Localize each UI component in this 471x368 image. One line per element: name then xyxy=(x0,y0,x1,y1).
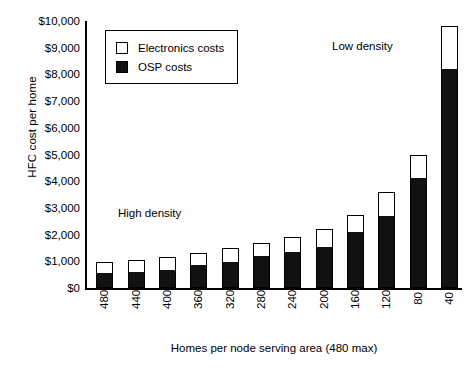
bar-segment-osp-costs xyxy=(191,265,206,287)
y-axis-tick-label: $6,000 xyxy=(18,122,80,133)
x-axis-tick-label: 320 xyxy=(222,292,239,309)
x-axis-tick-label: 280 xyxy=(253,292,270,309)
x-axis-title: Homes per node serving area (480 max) xyxy=(86,342,462,354)
stacked-bar xyxy=(253,243,270,288)
x-axis-tick-label: 120 xyxy=(378,292,395,309)
stacked-bar xyxy=(441,26,458,288)
y-axis-tick-label: $5,000 xyxy=(18,149,80,160)
bar-segment-osp-costs xyxy=(129,272,144,287)
chart-legend: Electronics costs OSP costs xyxy=(105,30,238,84)
hfc-cost-bar-chart: HFC cost per home $0$1,000$2,000$3,000$4… xyxy=(0,0,471,368)
x-axis-tick-label: 480 xyxy=(96,292,113,309)
y-axis-tick-labels: $0$1,000$2,000$3,000$4,000$5,000$6,000$7… xyxy=(18,21,80,288)
x-axis-tick-label: 400 xyxy=(159,292,176,309)
bar-segment-osp-costs xyxy=(223,262,238,287)
stacked-bar xyxy=(378,192,395,288)
annotation-low-density: Low density xyxy=(332,40,393,52)
stacked-bar xyxy=(190,253,207,288)
bar-segment-osp-costs xyxy=(379,216,394,287)
legend-item-osp-costs: OSP costs xyxy=(116,57,224,76)
stacked-bar xyxy=(222,248,239,288)
stacked-bar xyxy=(410,155,427,289)
bar-segment-osp-costs xyxy=(317,247,332,287)
x-axis-tick-label: 40 xyxy=(441,292,458,309)
x-axis-tick-label: 360 xyxy=(190,292,207,309)
y-axis-tick-label: $8,000 xyxy=(18,69,80,80)
stacked-bar xyxy=(128,260,145,288)
bar-segment-osp-costs xyxy=(254,256,269,287)
x-axis-tick-label: 240 xyxy=(284,292,301,309)
bar-segment-osp-costs xyxy=(97,273,112,287)
bar-segment-osp-costs xyxy=(160,270,175,287)
y-axis-tick-label: $9,000 xyxy=(18,42,80,53)
empty-square-icon xyxy=(116,42,128,54)
x-axis-tick-label: 200 xyxy=(316,292,333,309)
x-axis-tick-label: 440 xyxy=(128,292,145,309)
bar-segment-osp-costs xyxy=(348,232,363,287)
x-axis-tick-labels: 4804404003603202802402001601208040 xyxy=(86,292,462,336)
stacked-bar xyxy=(159,257,176,288)
x-axis-tick-label: 160 xyxy=(347,292,364,309)
y-axis-tick-label: $2,000 xyxy=(18,229,80,240)
annotation-high-density: High density xyxy=(118,207,181,219)
legend-item-electronics-costs: Electronics costs xyxy=(116,38,224,57)
legend-label-electronics-costs: Electronics costs xyxy=(138,42,224,54)
x-axis-tick-label: 80 xyxy=(410,292,427,309)
y-axis-tick-label: $7,000 xyxy=(18,96,80,107)
y-axis-tick-label: $1,000 xyxy=(18,256,80,267)
legend-label-osp-costs: OSP costs xyxy=(138,61,192,73)
y-axis-tick-label: $10,000 xyxy=(18,16,80,27)
bar-segment-osp-costs xyxy=(442,69,457,287)
stacked-bar xyxy=(347,215,364,288)
y-axis-tick-label: $0 xyxy=(18,283,80,294)
y-axis-tick-label: $4,000 xyxy=(18,176,80,187)
y-axis-tick-label: $3,000 xyxy=(18,202,80,213)
stacked-bar xyxy=(284,237,301,288)
filled-square-icon xyxy=(116,61,128,73)
bar-segment-osp-costs xyxy=(411,178,426,287)
stacked-bar xyxy=(316,229,333,288)
stacked-bar xyxy=(96,262,113,288)
bar-segment-osp-costs xyxy=(285,252,300,287)
